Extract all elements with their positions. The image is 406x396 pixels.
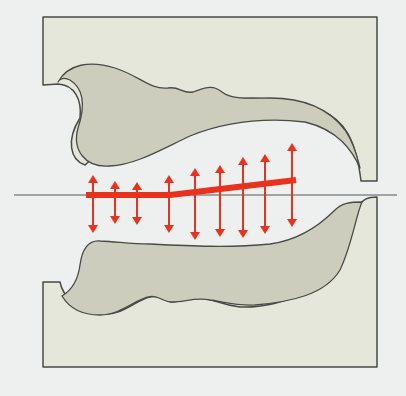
double-arrow-icon: [260, 154, 270, 234]
double-arrow-icon: [132, 182, 142, 225]
double-arrow-icon: [190, 168, 200, 240]
diagram-canvas: [0, 0, 406, 396]
double-arrow-icon: [164, 175, 174, 233]
double-arrow-icon: [287, 143, 297, 227]
double-arrow-icon: [110, 181, 120, 224]
double-arrow-icon: [238, 157, 248, 238]
double-arrow-icon: [88, 175, 98, 233]
double-arrow-icon: [215, 165, 225, 237]
